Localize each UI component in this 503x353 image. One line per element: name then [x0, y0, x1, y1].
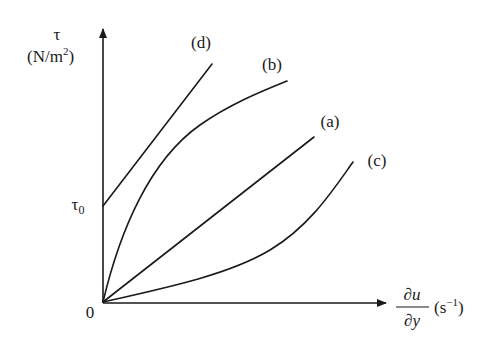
y-axis-symbol: τ [54, 25, 61, 44]
x-axis-unit: (s−1) [434, 296, 464, 317]
curve-c [103, 162, 353, 302]
tau0-label: τ0 [72, 195, 85, 217]
y-axis-unit: (N/m2) [27, 45, 74, 66]
curve-c-label: (c) [368, 151, 387, 170]
curve-b [103, 81, 287, 302]
x-axis-denominator: ∂y [404, 311, 420, 330]
curve-d-label: (d) [191, 33, 211, 52]
curve-b-label: (b) [262, 55, 282, 74]
shear-stress-diagram: τ (N/m2) 0 τ0 ∂u ∂y (s−1) (d) (b) (a) (c… [0, 0, 503, 353]
x-axis-numerator: ∂u [404, 285, 421, 304]
origin-label: 0 [86, 303, 95, 322]
curve-a-label: (a) [321, 112, 340, 131]
curve-d [103, 64, 212, 206]
curve-a [103, 137, 314, 302]
